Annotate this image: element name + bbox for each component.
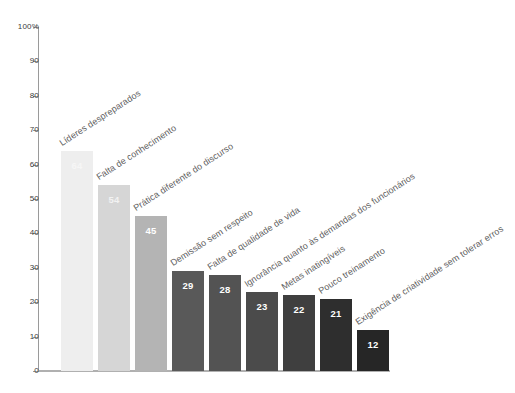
y-axis-tick: 60 — [0, 165, 39, 166]
y-axis-tick-label: 50 — [9, 195, 39, 203]
bar[interactable]: 45 — [135, 216, 167, 371]
y-axis-tick: 30 — [0, 268, 39, 269]
bar[interactable]: 64 — [61, 151, 93, 371]
bar-value-label: 22 — [283, 305, 315, 315]
y-axis-tick-label: 0 — [9, 367, 39, 375]
y-axis-tick-label: 20 — [9, 298, 39, 306]
bar-value-label: 28 — [209, 285, 241, 295]
y-axis-tick: 10 — [0, 337, 39, 338]
bar-chart: 100%9080706050403020100 6454452928232221… — [0, 0, 515, 393]
y-axis-tick-label: 30 — [9, 264, 39, 272]
y-axis-tick-label: 90 — [9, 57, 39, 65]
y-axis-tick-label: 80 — [9, 92, 39, 100]
y-axis-tick: 90 — [0, 61, 39, 62]
bar[interactable]: 28 — [209, 275, 241, 371]
y-axis-tick-label: 10 — [9, 333, 39, 341]
bar-value-label: 54 — [98, 195, 130, 205]
bar-value-label: 45 — [135, 226, 167, 236]
bar[interactable]: 12 — [357, 330, 389, 371]
y-axis-tick-label: 40 — [9, 229, 39, 237]
y-axis-tick-label: 60 — [9, 161, 39, 169]
y-axis-tick: 20 — [0, 302, 39, 303]
bar-value-label: 64 — [61, 161, 93, 171]
bar-value-label: 12 — [357, 340, 389, 350]
bar[interactable]: 29 — [172, 271, 204, 371]
bar-value-label: 23 — [246, 302, 278, 312]
bar-value-label: 29 — [172, 281, 204, 291]
y-axis-tick-label: 70 — [9, 126, 39, 134]
bar[interactable]: 23 — [246, 292, 278, 371]
bar[interactable]: 21 — [320, 299, 352, 371]
plot-area: 645445292823222112 — [39, 27, 390, 371]
bar[interactable]: 54 — [98, 185, 130, 371]
y-axis-tick: 50 — [0, 199, 39, 200]
y-axis-tick: 70 — [0, 130, 39, 131]
y-axis-tick: 40 — [0, 233, 39, 234]
bar-value-label: 21 — [320, 309, 352, 319]
bar[interactable]: 22 — [283, 295, 315, 371]
y-axis-tick-label: 100% — [9, 23, 39, 31]
y-axis-tick: 0 — [0, 371, 39, 372]
y-axis-tick: 80 — [0, 96, 39, 97]
y-axis-tick: 100% — [0, 27, 39, 28]
